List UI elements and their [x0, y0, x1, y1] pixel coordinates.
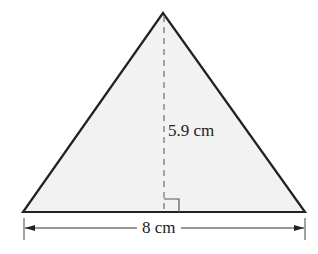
base-label: 8 cm — [137, 219, 181, 237]
left-arrow-icon — [25, 225, 35, 231]
right-arrow-icon — [294, 225, 304, 231]
triangle-diagram — [0, 0, 318, 254]
height-label: 5.9 cm — [168, 122, 214, 140]
